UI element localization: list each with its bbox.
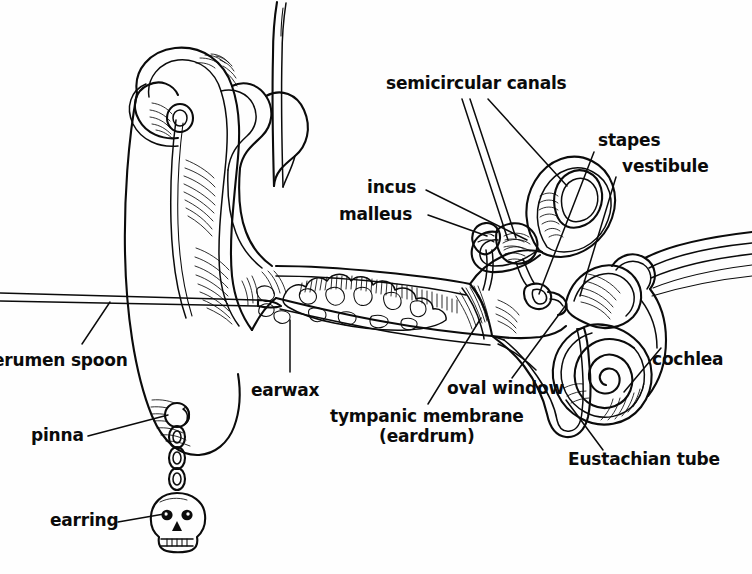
label-tympanic-membrane-line1: tympanic membrane <box>330 406 524 426</box>
label-semicircular-canals: semicircular canals <box>386 74 567 93</box>
label-eustachian-tube: Eustachian tube <box>568 450 720 469</box>
label-vestibule: vestibule <box>622 157 709 176</box>
label-pinna: pinna <box>31 426 84 445</box>
label-stapes: stapes <box>598 131 660 150</box>
label-malleus: malleus <box>339 205 412 224</box>
label-earring: earring <box>50 511 118 530</box>
label-cerumen-spoon: erumen spoon <box>0 351 128 370</box>
label-tympanic-membrane: tympanic membrane(eardrum) <box>330 407 524 446</box>
label-cochlea: cochlea <box>652 350 723 369</box>
ear-illustration: .s { fill:none; stroke:#0b0b0b; stroke-w… <box>0 0 752 574</box>
label-earwax: earwax <box>251 381 319 400</box>
label-oval-window: oval window <box>447 379 564 398</box>
label-incus: incus <box>367 178 416 197</box>
ear-anatomy-diagram: .s { fill:none; stroke:#0b0b0b; stroke-w… <box>0 0 752 574</box>
label-tympanic-membrane-line2: (eardrum) <box>379 426 475 446</box>
